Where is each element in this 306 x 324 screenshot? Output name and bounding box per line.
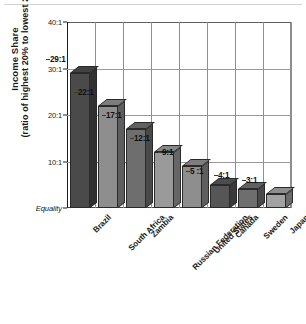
- bar: [98, 106, 118, 208]
- value-label-leader: [130, 138, 134, 139]
- y-axis-title: Income Share (ratio of highest 20% to lo…: [9, 0, 43, 149]
- top-divider: [4, 4, 302, 5]
- value-label-leader: [102, 115, 106, 116]
- y-axis-label-equality: Equality: [36, 204, 62, 213]
- y-axis-tick-mark: [63, 68, 67, 69]
- value-label-leader: [186, 171, 190, 172]
- value-label-leader: [214, 175, 218, 176]
- bar-value-label: 29:1: [50, 55, 66, 64]
- x-axis-category-label: Sweden: [262, 213, 290, 241]
- bar-front-face: [266, 194, 286, 208]
- bar-side-face: [174, 147, 181, 208]
- x-axis-category-label: Japan: [288, 213, 306, 236]
- y-axis-tick-mark: [63, 161, 67, 162]
- bar-value-label: 9:1: [162, 148, 173, 157]
- bar: [238, 189, 258, 208]
- bar: [210, 185, 230, 208]
- y-axis-title-line1: Income Share: [9, 0, 20, 149]
- bar-value-label: 5 :1: [190, 167, 203, 176]
- y-axis-tick-mark: [63, 22, 67, 23]
- y-axis-title-line2: (ratio of highest 20% to lowest 20%): [20, 0, 31, 149]
- y-axis-tick-label: 20:1: [48, 111, 62, 120]
- gridline-vertical: [291, 22, 292, 208]
- bar: [266, 194, 286, 208]
- bar-value-label: 4:1: [218, 171, 229, 180]
- y-axis-tick-label: 10:1: [48, 157, 62, 166]
- bar-front-face: [154, 152, 174, 208]
- bar-value-label: 3:1: [246, 176, 257, 185]
- bar-value-label: 22:1: [78, 88, 94, 97]
- bar-front-face: [210, 185, 230, 208]
- y-axis-tick-mark: [63, 115, 67, 116]
- plot-area: 40:130:120:110:1Equality 29:122:117:112:…: [67, 22, 291, 208]
- gridline-vertical: [263, 22, 264, 208]
- chart-figure: Income Share (ratio of highest 20% to lo…: [0, 0, 306, 324]
- bar-front-face: [238, 189, 258, 208]
- x-axis-category-label: Brazil: [91, 213, 113, 235]
- value-label-leader: [74, 92, 78, 93]
- value-label-leader: [46, 59, 50, 60]
- y-axis-tick-mark: [63, 208, 67, 209]
- bar-value-label: 17:1: [106, 111, 122, 120]
- value-label-leader: [158, 152, 162, 153]
- value-label-leader: [242, 180, 246, 181]
- y-axis-tick-label: 40:1: [48, 18, 62, 27]
- bar-front-face: [98, 106, 118, 208]
- bar: [154, 152, 174, 208]
- y-axis-tick-label: 30:1: [48, 64, 62, 73]
- bar-value-label: 12:1: [134, 134, 150, 143]
